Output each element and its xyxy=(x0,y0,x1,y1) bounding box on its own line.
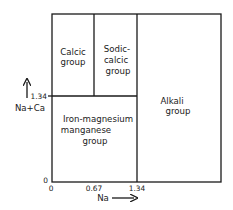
x-tick-label: 0 xyxy=(49,184,54,193)
region-calcic: Calcic group xyxy=(60,47,86,67)
x-axis-label: Na xyxy=(97,193,109,203)
region-label-line: group xyxy=(106,66,131,76)
x-tick-label: 1.34 xyxy=(129,184,146,193)
region-alkali: Alkali group xyxy=(160,96,190,116)
region-label-line: Sodic- xyxy=(104,44,130,54)
y-tick-label: 0 xyxy=(43,176,48,185)
region-label-line: group xyxy=(61,57,86,67)
x-tick-label: 0.67 xyxy=(86,184,103,193)
region-label-line: Alkali xyxy=(160,96,183,106)
region-label-line: Calcic xyxy=(60,47,86,57)
region-label-line: group xyxy=(83,136,108,146)
y-axis-label: Na+Ca xyxy=(15,103,45,113)
region-label-line: manganese xyxy=(61,125,111,135)
region-label-line: Iron-magnesium xyxy=(63,114,133,124)
y-tick-label: 1.34 xyxy=(31,92,48,101)
region-iron-magnesium-manganese: Iron-magnesium manganese group xyxy=(61,114,133,146)
region-label-line: calcic xyxy=(104,55,128,65)
region-label-line: group xyxy=(166,106,191,116)
region-sodic-calcic: Sodic- calcic group xyxy=(104,44,131,76)
amphibole-classification-diagram: Calcic group Sodic- calcic group Iron-ma… xyxy=(0,0,233,210)
